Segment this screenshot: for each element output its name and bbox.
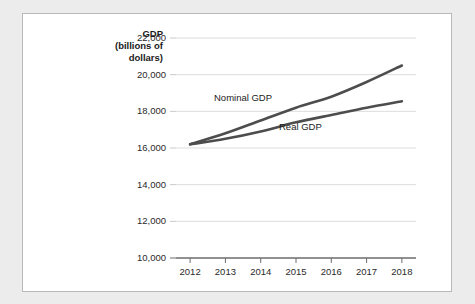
series-label-real-gdp: Real GDP — [279, 121, 322, 132]
y-tick-label: 10,000 — [122, 252, 166, 263]
x-tick-label: 2014 — [244, 266, 278, 277]
y-axis-title-line3: dollars) — [67, 52, 163, 64]
x-tick-label: 2012 — [173, 266, 207, 277]
y-tick-label: 22,000 — [122, 32, 166, 43]
y-tick-label: 20,000 — [122, 69, 166, 80]
x-tick-label: 2013 — [208, 266, 242, 277]
gridlines — [170, 38, 416, 258]
y-tick-label: 18,000 — [122, 105, 166, 116]
figure-root: GDP (billions of dollars) 10,00012,00014… — [0, 0, 475, 304]
series-label-nominal-gdp: Nominal GDP — [214, 92, 272, 103]
x-tick-label: 2016 — [314, 266, 348, 277]
x-axis-ticks — [190, 258, 402, 263]
y-tick-label: 14,000 — [122, 179, 166, 190]
y-tick-label: 16,000 — [122, 142, 166, 153]
chart-panel: GDP (billions of dollars) 10,00012,00014… — [22, 13, 452, 292]
series-line-nominal-gdp — [190, 66, 402, 145]
series-lines — [190, 66, 402, 145]
x-tick-label: 2017 — [350, 266, 384, 277]
y-tick-label: 12,000 — [122, 215, 166, 226]
x-tick-label: 2015 — [279, 266, 313, 277]
x-tick-label: 2018 — [385, 266, 419, 277]
